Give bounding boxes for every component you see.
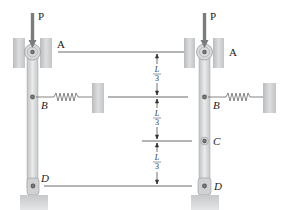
right-system: P A B C D — [184, 10, 276, 210]
left-pin-a — [30, 50, 34, 54]
left-load-label: P — [38, 10, 44, 22]
left-label-d: D — [40, 172, 49, 184]
left-system: P A B D — [13, 10, 104, 210]
dimension-1-numerator: L — [154, 65, 160, 74]
right-label-a: A — [229, 46, 237, 58]
dimension-2-numerator: L — [154, 109, 160, 118]
right-pin-a — [202, 50, 206, 54]
right-pin-d — [202, 184, 207, 189]
left-guide-wall-right — [40, 38, 52, 68]
left-label-a: A — [57, 38, 65, 50]
left-spring-wall — [92, 83, 104, 113]
left-column-bar — [27, 52, 38, 188]
right-load-arrow-icon — [201, 13, 209, 48]
right-pin-b — [202, 95, 207, 100]
reference-lines — [44, 52, 192, 186]
right-load-label: P — [210, 10, 216, 22]
left-load-arrow-icon — [29, 13, 37, 48]
dimension-2-denominator: 3 — [155, 118, 159, 127]
right-label-c: C — [213, 135, 221, 147]
dimension-3-numerator: L — [154, 153, 160, 162]
right-label-b: B — [213, 99, 220, 111]
left-pin-d — [31, 184, 36, 189]
right-guide-wall-right — [213, 38, 224, 68]
right-base-support — [191, 195, 219, 210]
right-guide-wall-left — [184, 38, 195, 68]
dimension-1-denominator: 3 — [155, 74, 159, 83]
left-label-b: B — [41, 99, 48, 111]
buckling-diagram: L 3 L 3 L 3 P A B D — [0, 0, 285, 210]
right-pin-c — [202, 139, 206, 143]
left-base-support — [20, 195, 48, 210]
right-label-d: D — [213, 180, 222, 192]
right-spring-wall — [263, 83, 276, 113]
right-column-bar — [199, 52, 210, 188]
left-pin-b — [30, 95, 35, 100]
left-guide-wall-left — [13, 38, 25, 68]
dimension-3-denominator: 3 — [155, 162, 159, 171]
